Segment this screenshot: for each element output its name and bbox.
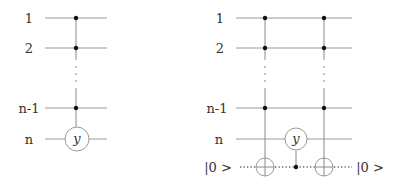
y-gate-label: y [291,131,300,146]
ellipsis-dot [75,66,77,68]
qubit-label-n: n [215,132,224,147]
control-dot-1 [322,16,326,20]
circuit-diagram: 1 2 n-1 n y 1 2 n-1 n |0 > |0 > [0,0,396,188]
ancilla-in-label: |0 > [204,160,232,175]
control-dot-1 [263,16,267,20]
qubit-label-1: 1 [25,11,33,26]
qubit-label-2: 2 [25,41,33,56]
y-gate-label: y [72,131,81,146]
qubit-label-n-1: n-1 [18,101,39,116]
right-circuit: 1 2 n-1 n |0 > |0 > y [204,11,384,176]
ellipsis-dot [323,80,325,82]
ellipsis-dot [323,66,325,68]
control-dot-ancilla [294,165,298,169]
oplus-target-icon [315,158,333,176]
qubit-label-2: 2 [216,41,224,56]
ellipsis-dot [75,73,77,75]
oplus-target-icon [256,158,274,176]
control-dot-n-1 [322,106,326,110]
left-circuit: 1 2 n-1 n y [18,11,107,151]
control-dot-n-1 [74,106,78,110]
qubit-label-n-1: n-1 [206,101,227,116]
ellipsis-dot [264,66,266,68]
control-dot-n-1 [263,106,267,110]
ellipsis-dot [264,80,266,82]
qubit-label-1: 1 [216,11,224,26]
ellipsis-dot [264,73,266,75]
control-dot-2 [322,46,326,50]
control-dot-2 [74,46,78,50]
qubit-label-n: n [25,132,34,147]
ancilla-out-label: |0 > [356,160,384,175]
control-dot-1 [74,16,78,20]
ellipsis-dot [323,73,325,75]
ellipsis-dot [75,80,77,82]
control-dot-2 [263,46,267,50]
